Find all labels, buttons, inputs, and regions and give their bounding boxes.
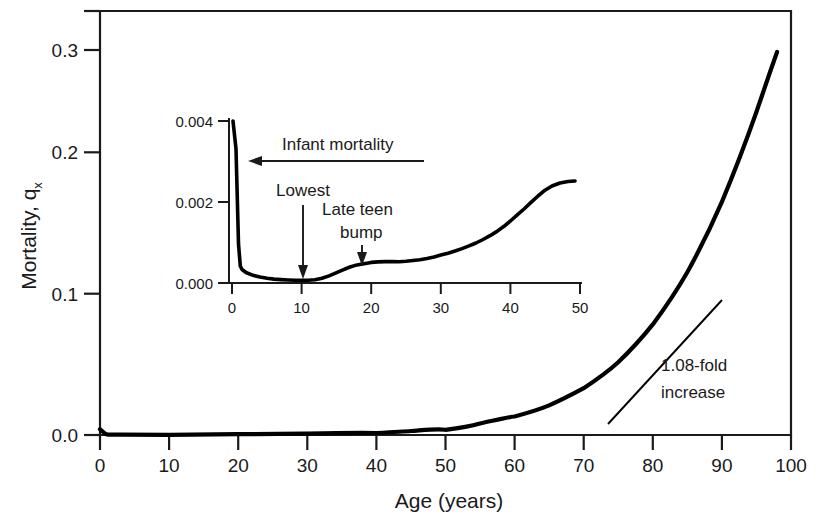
inset-y-tick-label-1: 0.002	[175, 194, 213, 211]
y-tick-label-3: 0.3	[52, 40, 78, 61]
x-tick-label-6: 60	[504, 455, 525, 476]
y-tick-label-0: 0.0	[52, 425, 78, 446]
x-tick-label-7: 70	[573, 455, 594, 476]
annotation-lowest-label: Lowest	[276, 181, 330, 200]
inset-x-tick-label-2: 20	[363, 299, 380, 316]
inset-x-tick-label-3: 30	[432, 299, 449, 316]
x-tick-label-4: 40	[366, 455, 387, 476]
x-axis-title: Age (years)	[395, 489, 504, 512]
y-axis-title-text: Mortality, q	[17, 189, 40, 290]
x-tick-label-10: 100	[775, 455, 807, 476]
annotation-fold-increase-line1: 1.08-fold	[661, 356, 727, 375]
annotation-fold-increase-line2: increase	[661, 383, 725, 402]
y-axis-title-subscript: x	[30, 182, 45, 189]
inset-x-tick-label-0: 0	[228, 299, 236, 316]
y-tick-label-2: 0.2	[52, 142, 78, 163]
inset-y-tick-label-0: 0.000	[175, 275, 213, 292]
x-tick-label-9: 90	[711, 455, 732, 476]
x-tick-label-3: 30	[297, 455, 318, 476]
mortality-figure: 0.0 0.1 0.2 0.3 0 10 20 30 40 50	[0, 0, 817, 522]
inset-x-tick-label-5: 50	[572, 299, 589, 316]
inset-x-tick-label-4: 40	[502, 299, 519, 316]
y-tick-label-1: 0.1	[52, 284, 78, 305]
x-tick-label-2: 20	[228, 455, 249, 476]
inset-x-tick-label-1: 10	[293, 299, 310, 316]
annotation-late-teen-bump-line2: bump	[340, 223, 383, 242]
annotation-late-teen-bump-line1: Late teen	[322, 200, 393, 219]
x-tick-label-1: 10	[159, 455, 180, 476]
annotation-infant-mortality-label: Infant mortality	[282, 135, 394, 154]
x-tick-label-8: 80	[642, 455, 663, 476]
inset-y-tick-label-2: 0.004	[175, 113, 213, 130]
x-tick-label-0: 0	[95, 455, 106, 476]
mortality-chart-svg: 0.0 0.1 0.2 0.3 0 10 20 30 40 50	[0, 0, 817, 522]
x-tick-label-5: 50	[435, 455, 456, 476]
